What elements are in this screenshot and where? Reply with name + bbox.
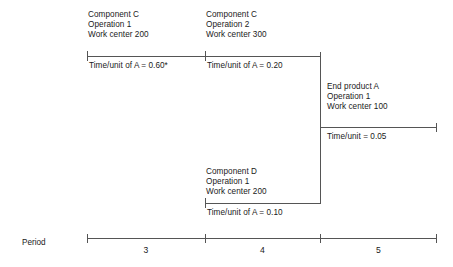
operation-label-end-product-a-op1: End product A Operation 1 Work center 10… bbox=[327, 82, 388, 113]
period-axis-tick-2 bbox=[320, 234, 321, 243]
period-axis-label: Period bbox=[22, 238, 46, 248]
operation-work-center: Work center 100 bbox=[327, 102, 388, 112]
operation-item: Component D bbox=[206, 167, 267, 177]
operation-label-component-c-op1: Component C Operation 1 Work center 200 bbox=[88, 10, 149, 41]
duration-tick-start-component-c-op2 bbox=[205, 51, 206, 61]
duration-tick-end-end-product-a-op1 bbox=[436, 123, 437, 132]
operation-work-center: Work center 200 bbox=[206, 187, 267, 197]
operation-label-component-d-op1: Component D Operation 1 Work center 200 bbox=[206, 167, 267, 198]
duration-bar-component-d-op1 bbox=[205, 203, 320, 204]
operation-item: Component C bbox=[88, 10, 149, 20]
duration-tick-start-component-c-op1 bbox=[87, 51, 88, 61]
operation-item: Component C bbox=[206, 10, 267, 20]
lead-time-chart: Component C Operation 1 Work center 200 … bbox=[0, 0, 453, 267]
time-per-unit-end-product-a-op1: Time/unit = 0.05 bbox=[327, 132, 386, 142]
time-per-unit-component-d-op1: Time/unit of A = 0.10 bbox=[207, 208, 283, 218]
duration-bar-component-c-op1 bbox=[87, 56, 205, 57]
operation-work-center: Work center 300 bbox=[206, 30, 267, 40]
duration-bar-end-product-a-op1 bbox=[320, 127, 437, 128]
merge-connector-line bbox=[320, 52, 321, 204]
period-axis-tick-0 bbox=[87, 234, 88, 243]
period-axis-tick-1 bbox=[205, 234, 206, 243]
period-number-4: 4 bbox=[205, 245, 320, 255]
duration-bar-component-c-op2 bbox=[205, 56, 320, 57]
period-axis-line bbox=[87, 238, 437, 239]
time-per-unit-component-c-op2: Time/unit of A = 0.20 bbox=[207, 61, 283, 71]
operation-number: Operation 2 bbox=[206, 20, 267, 30]
period-number-3: 3 bbox=[87, 245, 205, 255]
duration-tick-start-component-d-op1 bbox=[205, 198, 206, 208]
period-number-5: 5 bbox=[320, 245, 437, 255]
operation-item: End product A bbox=[327, 82, 388, 92]
period-axis-tick-3 bbox=[436, 234, 437, 243]
operation-work-center: Work center 200 bbox=[88, 30, 149, 40]
operation-number: Operation 1 bbox=[327, 92, 388, 102]
operation-label-component-c-op2: Component C Operation 2 Work center 300 bbox=[206, 10, 267, 41]
operation-number: Operation 1 bbox=[88, 20, 149, 30]
operation-number: Operation 1 bbox=[206, 177, 267, 187]
time-per-unit-component-c-op1: Time/unit of A = 0.60* bbox=[89, 61, 168, 71]
